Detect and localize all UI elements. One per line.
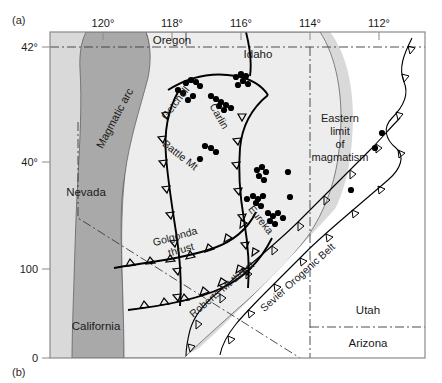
label-eastern-limit-4: magmatism — [312, 151, 369, 163]
top-axis-tick-labels: 120°118°116°114°112° — [92, 17, 390, 29]
left-axis-ticks — [42, 47, 50, 358]
deposit-dot — [285, 169, 291, 175]
left-tick-label: 40° — [21, 156, 38, 168]
deposit-dot — [256, 173, 262, 179]
deposit-dot — [202, 143, 208, 149]
top-tick-label: 116° — [230, 17, 252, 29]
deposit-dot — [190, 93, 196, 99]
deposit-dot — [228, 105, 234, 111]
panel-label-a: (a) — [12, 14, 25, 26]
deposit-dot — [263, 169, 269, 175]
label-idaho: Idaho — [244, 48, 273, 60]
top-tick-label: 118° — [161, 17, 183, 29]
map-canvas: 120°118°116°114°112° 42°40°1000 Oregon I… — [0, 0, 442, 383]
top-tick-label: 120° — [92, 17, 115, 29]
label-california: California — [72, 320, 121, 332]
left-axis-tick-labels: 42°40°1000 — [20, 41, 38, 364]
deposit-dot — [259, 164, 265, 170]
deposit-dot — [235, 82, 241, 88]
deposit-dot — [208, 145, 214, 151]
deposit-dot — [348, 187, 354, 193]
deposit-dot — [261, 177, 267, 183]
deposit-dot — [260, 193, 266, 199]
deposit-dot — [275, 210, 281, 216]
top-tick-label: 114° — [299, 17, 321, 29]
label-arizona: Arizona — [349, 337, 389, 349]
label-utah: Utah — [356, 304, 380, 316]
deposit-dot — [197, 83, 203, 89]
deposit-dot — [280, 215, 286, 221]
deposit-dot — [245, 81, 251, 87]
deposit-dot — [244, 196, 250, 202]
left-tick-label: 0 — [32, 352, 38, 364]
label-nevada: Nevada — [66, 186, 106, 198]
top-tick-label: 112° — [368, 17, 390, 29]
left-tick-label: 100 — [20, 263, 38, 275]
label-eastern-limit-2: limit — [330, 125, 350, 137]
label-eastern-limit-1: Eastern — [321, 112, 359, 124]
deposit-dot — [379, 130, 385, 136]
geologic-map-figure: 120°118°116°114°112° 42°40°1000 Oregon I… — [0, 0, 442, 383]
label-oregon: Oregon — [153, 34, 191, 46]
deposit-dot — [372, 145, 378, 151]
panel-label-b: (b) — [12, 366, 25, 378]
left-tick-label: 42° — [21, 41, 38, 53]
label-eastern-limit-3: of — [335, 138, 345, 150]
deposit-dot — [287, 194, 293, 200]
deposit-dot — [213, 149, 219, 155]
